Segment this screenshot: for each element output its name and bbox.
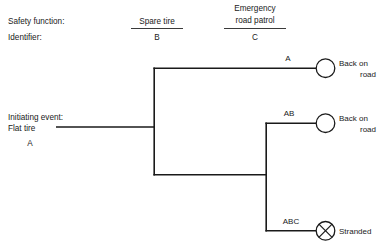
initiating-event-label-line1: Initiating event: bbox=[8, 113, 63, 122]
column-identifier-b: B bbox=[154, 33, 160, 42]
event-tree-figure: Safety function: Identifier: Spare tire … bbox=[0, 0, 384, 246]
column-heading-spare-tire-line1: Spare tire bbox=[139, 17, 175, 26]
identifier-row-label: Identifier: bbox=[8, 33, 42, 42]
initiating-event-identifier: A bbox=[27, 139, 33, 148]
column-heading-emergency-road-patrol-line2: road patrol bbox=[235, 16, 274, 25]
branch-3-outcome-line1: Stranded bbox=[339, 227, 371, 236]
branch-1-outcome-line2: road bbox=[360, 70, 376, 79]
safety-function-row-label: Safety function: bbox=[8, 17, 64, 26]
event-tree-canvas: Safety function: Identifier: Spare tire … bbox=[0, 0, 384, 246]
branch-3-sequence-id: ABC bbox=[283, 217, 300, 226]
column-heading-emergency-road-patrol-line1: Emergency bbox=[234, 4, 276, 13]
branch-2-outcome-node-circle-icon bbox=[316, 114, 335, 133]
branch-1-outcome-line1: Back on bbox=[339, 59, 368, 68]
branch-2-outcome-line1: Back on bbox=[339, 114, 368, 123]
branch-1-sequence-id: A bbox=[285, 54, 291, 63]
branch-1-outcome-node-circle-icon bbox=[316, 59, 335, 78]
column-identifier-c: C bbox=[252, 33, 258, 42]
initiating-event-label-line2: Flat tire bbox=[8, 124, 36, 133]
branch-3-outcome-node-crossed-circle-icon bbox=[316, 222, 335, 241]
branch-2-sequence-id: AB bbox=[284, 109, 295, 118]
branch-2-outcome-line2: road bbox=[360, 125, 376, 134]
